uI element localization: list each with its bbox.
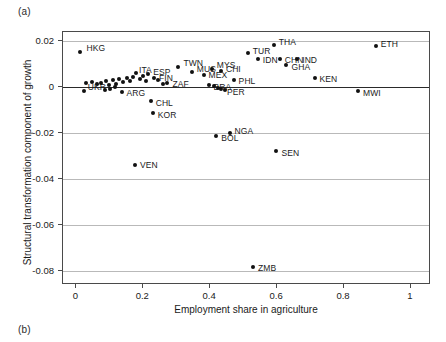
x-axis-tick [142, 284, 143, 288]
x-axis-tick [343, 284, 344, 288]
x-axis-label: Employment share in agriculture [62, 304, 430, 315]
data-point-label: PER [227, 88, 245, 97]
data-point [202, 73, 206, 77]
data-point [131, 75, 135, 79]
data-point [246, 51, 250, 55]
x-axis-tick [276, 284, 277, 288]
y-axis-tick [58, 40, 62, 41]
data-point-label: ARG [127, 89, 146, 98]
data-point [214, 134, 218, 138]
gridline [63, 271, 429, 272]
data-point [144, 79, 148, 83]
y-axis-tick [58, 86, 62, 87]
data-point [128, 79, 132, 83]
data-point [133, 163, 137, 167]
data-point [103, 88, 107, 92]
data-point [256, 57, 260, 61]
data-point-label: IDN [263, 56, 278, 65]
data-point [120, 90, 124, 94]
x-axis-tick-label: 0.8 [336, 290, 349, 301]
x-axis-tick-label: 0 [73, 290, 78, 301]
scatter-chart-figure: HKGUKRTWNMUSMYSCHIMEXESPITAFINZAFBRAPERA… [0, 0, 446, 320]
panel-label-b: (b) [18, 324, 31, 335]
data-point [313, 76, 317, 80]
y-axis-tick-label: -0.02 [32, 127, 54, 138]
data-point-label: ZAF [172, 80, 188, 89]
data-point [207, 83, 211, 87]
data-point [151, 111, 155, 115]
data-point [228, 131, 232, 135]
y-axis-tick [58, 270, 62, 271]
x-axis-tick [209, 284, 210, 288]
x-axis-tick [410, 284, 411, 288]
data-point [149, 99, 153, 103]
x-axis-tick-label: 0.4 [203, 290, 216, 301]
data-point [216, 86, 220, 90]
data-point [113, 85, 117, 89]
y-axis-tick-label: -0.06 [32, 219, 54, 230]
data-point [251, 265, 255, 269]
data-point [356, 89, 360, 93]
data-point [78, 50, 82, 54]
data-point [272, 43, 276, 47]
data-point-label: ZMB [258, 264, 276, 273]
data-point-label: SEN [281, 149, 299, 158]
data-point [190, 70, 194, 74]
y-axis-tick-label: -0.08 [32, 265, 54, 276]
data-point [278, 57, 282, 61]
data-point-label: KOR [158, 111, 177, 120]
data-point [232, 78, 236, 82]
data-point [165, 81, 169, 85]
data-point [141, 74, 145, 78]
data-point-label: PHL [239, 77, 256, 86]
data-point [274, 149, 278, 153]
y-axis-tick [58, 132, 62, 133]
data-point [176, 65, 180, 69]
y-axis-tick-label: 0 [49, 81, 54, 92]
x-axis-tick-label: 0.2 [136, 290, 149, 301]
data-point-label: HKG [86, 44, 105, 53]
data-point-label: GHA [291, 63, 310, 72]
data-point-label: VEN [140, 161, 158, 170]
data-point-label: NGA [235, 127, 254, 136]
x-axis-tick-label: 1 [407, 290, 412, 301]
plot-area: HKGUKRTWNMUSMYSCHIMEXESPITAFINZAFBRAPERA… [62, 31, 430, 284]
y-axis-tick [58, 224, 62, 225]
data-point-label: THA [279, 38, 296, 47]
data-point [374, 44, 378, 48]
gridline [63, 41, 429, 42]
data-point [223, 88, 227, 92]
x-axis-tick [75, 284, 76, 288]
y-axis-tick-label: 0.02 [36, 35, 55, 46]
data-point [161, 82, 165, 86]
data-point [108, 87, 112, 91]
data-point [121, 80, 125, 84]
data-point-label: CHI [226, 65, 241, 74]
gridline [63, 225, 429, 226]
data-point-label: CHL [156, 99, 173, 108]
y-axis-tick-label: -0.04 [32, 173, 54, 184]
data-point [82, 89, 86, 93]
data-point-label: MEX [209, 71, 228, 80]
gridline [63, 179, 429, 180]
x-axis-tick-label: 0.6 [269, 290, 282, 301]
data-point-label: ETH [381, 40, 398, 49]
data-point-label: MWI [363, 89, 381, 98]
y-axis-tick [58, 178, 62, 179]
y-axis-label: Structural transformation component of g… [22, 36, 33, 289]
data-point-label: KEN [320, 75, 338, 84]
